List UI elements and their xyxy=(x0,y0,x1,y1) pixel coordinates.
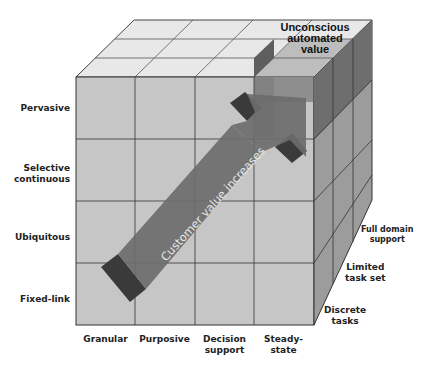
col-label-line1: Decision xyxy=(195,334,254,345)
row-label-line1: Selective xyxy=(0,163,70,174)
row-label-selective-continuous: Selective continuous xyxy=(0,163,70,185)
depth-label-line2: task set xyxy=(345,273,386,284)
depth-label-line2: tasks xyxy=(324,316,366,327)
depth-label-discrete-tasks: Discrete tasks xyxy=(324,305,366,327)
row-label-line2: continuous xyxy=(0,174,70,185)
col-label-purposive: Purposive xyxy=(135,334,194,345)
highlight-label: Unconscious automated value xyxy=(278,22,352,55)
row-label-fixed-link: Fixed-link xyxy=(0,294,70,305)
col-label-decision-support: Decision support xyxy=(195,334,254,356)
col-label-line2: support xyxy=(195,345,254,356)
depth-label-full-domain-support: Full domain support xyxy=(361,225,413,245)
depth-label-limited-task-set: Limited task set xyxy=(345,262,386,284)
col-label-steady-state: Steady- state xyxy=(254,334,313,356)
highlight-label-line3: value xyxy=(278,44,352,55)
depth-label-line1: Full domain xyxy=(361,225,413,235)
col-label-line2: state xyxy=(254,345,313,356)
depth-label-line2: support xyxy=(361,235,413,245)
col-label-granular: Granular xyxy=(76,334,135,345)
depth-label-line1: Limited xyxy=(345,262,386,273)
depth-label-line1: Discrete xyxy=(324,305,366,316)
row-label-ubiquitous: Ubiquitous xyxy=(0,232,70,243)
col-label-line1: Steady- xyxy=(254,334,313,345)
row-label-pervasive: Pervasive xyxy=(0,103,70,114)
